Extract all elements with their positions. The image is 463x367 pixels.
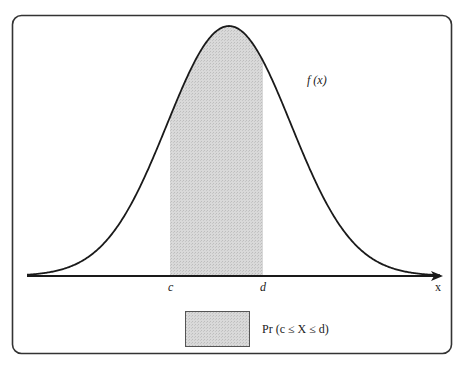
curve-label-fx: f (x) xyxy=(307,73,327,87)
lower-bound-label-c: c xyxy=(168,280,174,294)
shaded-probability-area xyxy=(170,26,263,276)
probability-diagram: x c d f (x) Pr (c ≤ X ≤ d) xyxy=(0,0,463,367)
legend-swatch xyxy=(186,312,250,347)
upper-bound-label-d: d xyxy=(260,280,267,294)
legend-text: Pr (c ≤ X ≤ d) xyxy=(262,322,329,336)
x-axis-label: x xyxy=(435,280,441,294)
